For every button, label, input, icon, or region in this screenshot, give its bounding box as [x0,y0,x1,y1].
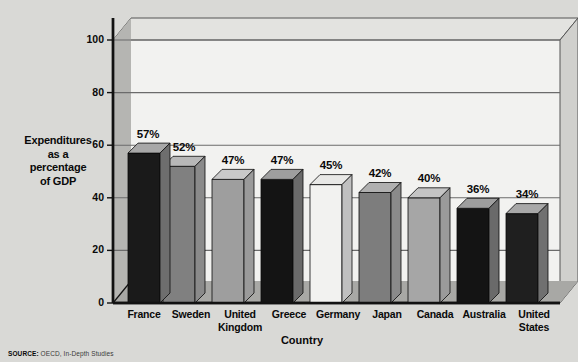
y-tick-label-40: 40 [68,191,104,203]
bar-japan [359,183,401,304]
plot-top-panel [113,18,578,40]
y-tick-label-20: 20 [68,243,104,255]
bar-united-kingdom [212,169,254,303]
value-label-sweden: 52% [155,141,213,153]
y-tick-label-60: 60 [68,138,104,150]
bar-greece [261,169,303,303]
bar-germany [310,175,352,303]
x-tick-label-united-states-line-1: United [504,308,564,321]
bar-chart: Expenditures as a percentage of GDP Coun… [0,0,578,362]
value-label-france: 57% [119,128,177,140]
bar-united-states [506,204,548,303]
x-tick-label-united-states-line-2: States [504,321,564,334]
source-note-prefix: SOURCE: [8,350,39,357]
y-tick-label-80: 80 [68,86,104,98]
source-note: SOURCE: OECD, In-Depth Studies [8,350,114,357]
plot-right-panel [560,18,578,303]
x-tick-label-united-states: United States [504,308,564,333]
y-tick-label-0: 0 [68,296,104,308]
source-note-text: OECD, In-Depth Studies [41,350,114,357]
bar-australia [457,198,499,303]
value-label-united-states: 34% [498,188,556,200]
y-tick-label-100: 100 [68,33,104,45]
bar-canada [408,188,450,303]
x-tick-label-united-kingdom-line-2: Kingdom [210,321,270,334]
bar-france [128,143,170,303]
